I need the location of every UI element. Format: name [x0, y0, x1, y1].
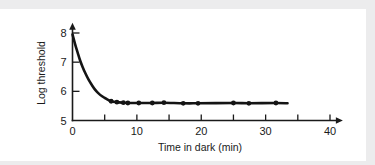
line-chart-plot: 010203040 5678 Time in dark (min) Log th…: [0, 0, 375, 165]
x-tick-label-0: 0: [69, 125, 75, 137]
x-tick-label-30: 30: [260, 125, 272, 137]
data-point-marker: [231, 101, 236, 106]
data-curve-line: [73, 34, 288, 103]
data-point-marker: [162, 100, 167, 105]
data-point-marker: [136, 101, 141, 106]
y-axis-title: Log threshold: [35, 41, 47, 105]
data-point-marker: [115, 100, 120, 105]
data-point-marker: [196, 101, 201, 106]
x-axis-tick-labels: 010203040: [69, 125, 336, 137]
x-tick-label-40: 40: [324, 125, 336, 137]
y-axis-arrow-icon: [69, 23, 76, 30]
y-tick-label-8: 8: [60, 27, 66, 39]
x-tick-label-20: 20: [195, 125, 207, 137]
y-tick-label-5: 5: [60, 115, 66, 127]
chart-axes: [69, 23, 343, 124]
data-point-marker: [150, 101, 155, 106]
data-point-marker: [181, 101, 186, 106]
data-point-marker: [125, 101, 130, 106]
data-point-marker: [109, 99, 114, 104]
x-axis-ticks: [105, 115, 330, 121]
y-tick-label-6: 6: [60, 85, 66, 97]
data-point-marker: [121, 100, 126, 105]
data-point-marker: [246, 101, 251, 106]
y-axis-tick-labels: 5678: [60, 27, 66, 127]
x-axis-title: Time in dark (min): [158, 141, 242, 153]
x-axis-arrow-icon: [336, 117, 343, 124]
data-series: [73, 34, 288, 105]
x-tick-label-10: 10: [131, 125, 143, 137]
data-point-marker: [274, 101, 279, 106]
chart-figure: 010203040 5678 Time in dark (min) Log th…: [0, 0, 375, 165]
y-tick-label-7: 7: [60, 56, 66, 68]
